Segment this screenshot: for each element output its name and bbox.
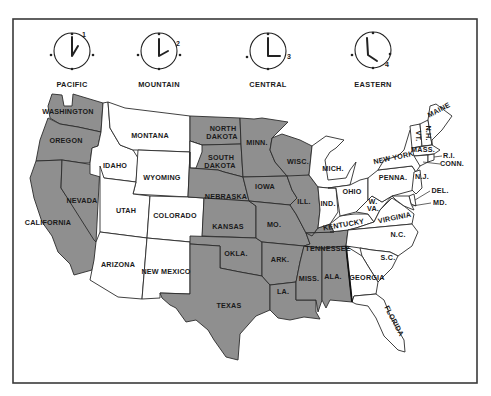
label-kansas: KANSAS [212,222,244,231]
label-oklahoma: OKLA. [224,249,247,258]
label-tennessee: TENNESSEE [305,244,350,253]
clock-tick [372,32,375,35]
label-indiana: IND. [320,199,335,208]
clock-tick [71,68,74,71]
clock-tick [267,68,270,71]
label-illinois: ILL. [297,197,311,206]
label-georgia: GEORGIA [349,273,384,282]
clock-tick [137,54,140,57]
clock-hour-number: 3 [287,53,291,60]
clock-tick [92,54,95,57]
us-time-zone-map: 1 PACIFIC 2 MOUNTAIN 3 CENTRAL 4 EASTERN [0,0,491,396]
label-new-jersey: N.J. [415,172,429,181]
label-new-hampshire: N.H. [424,125,433,140]
label-michigan: MICH. [322,164,343,173]
state-kansas [202,198,256,238]
clock-tick [389,53,392,56]
clock-tick [50,54,53,57]
label-wyoming: WYOMING [143,173,181,182]
label-washington: WASHINGTON [42,107,93,116]
clock-tick [246,56,249,59]
clock-tick [158,68,161,71]
zone-label-central: CENTRAL [249,80,287,89]
label-montana: MONTANA [131,131,169,140]
label-maryland: MD. [433,198,447,207]
label-idaho: IDAHO [103,161,127,170]
clock-tick [71,33,74,36]
clock-mountain: 2 MOUNTAIN [137,33,182,89]
label-south-dakota-2: DAKOTA [204,161,235,170]
label-texas: TEXAS [217,301,242,310]
label-north-carolina: N.C. [390,230,405,239]
clock-hour-number: 4 [385,61,389,68]
label-west-virginia-2: VA. [367,204,379,213]
clock-tick [267,33,270,36]
label-connecticut: CONN. [440,159,464,168]
label-pennsylvania: PENNA. [379,173,407,182]
label-missouri: MO. [267,220,281,229]
label-wisconsin: WISC. [287,157,309,166]
label-ohio: OHIO [342,187,361,196]
label-nevada: NEVADA [66,196,97,205]
zone-label-pacific: PACIFIC [56,80,87,89]
label-minnesota: MINN. [246,138,267,147]
label-nebraska: NEBRASKA [205,192,247,201]
label-mississippi: MISS. [299,274,320,283]
label-california: CALIFORNIA [25,218,71,227]
label-new-mexico: NEW MEXICO [141,267,190,276]
clock-tick [158,33,161,36]
label-iowa: IOWA [255,182,275,191]
clock-tick [351,54,354,57]
label-oregon: OREGON [49,136,82,145]
zone-label-eastern: EASTERN [354,80,391,89]
clock-tick [179,54,182,57]
clock-hour-number: 2 [176,40,180,47]
label-alabama: ALA. [324,272,342,281]
label-vermont: VT. [414,131,423,142]
label-delaware: DEL. [431,186,448,195]
label-massachusetts: MASS. [411,145,435,154]
label-south-carolina: S.C. [381,253,396,262]
label-utah: UTAH [116,206,136,215]
label-colorado: COLORADO [153,211,197,220]
label-louisiana: LA. [277,287,289,296]
label-north-dakota-2: DAKOTA [206,132,237,141]
label-arizona: ARIZONA [101,260,135,269]
zone-label-mountain: MOUNTAIN [138,80,180,89]
clock-hour-number: 1 [82,31,86,38]
label-arkansas: ARK. [271,255,289,264]
clock-tick [372,67,375,70]
